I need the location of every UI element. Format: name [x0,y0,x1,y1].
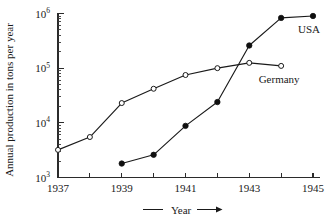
y-axis-title: Annual production in tons per year [3,23,15,177]
data-point-germany-1942 [215,66,220,71]
y-tick-exponent: 3 [46,170,50,179]
x-tick-label: 1941 [175,182,197,194]
data-point-usa-1941 [183,123,188,128]
x-tick-label: 1945 [302,182,325,194]
production-log-chart: 103104105106 19371939194119431945 USAGer… [0,0,334,222]
x-axis-title: Year [171,204,192,216]
data-point-usa-1943 [247,43,252,48]
y-tick-exponent: 6 [46,6,50,15]
data-point-germany-1943 [247,60,252,65]
data-point-germany-1944 [279,63,284,68]
data-point-germany-1938 [87,135,92,140]
data-point-usa-1940 [151,152,156,157]
data-point-usa-1942 [215,99,220,104]
data-point-usa-1939 [119,161,124,166]
x-tick-label: 1937 [47,182,70,194]
y-tick-exponent: 4 [46,115,50,124]
x-tick-label: 1939 [111,182,134,194]
series-label-germany: Germany [259,73,300,85]
data-point-usa-1944 [278,15,283,20]
x-tick-label: 1943 [238,182,261,194]
data-point-germany-1941 [183,73,188,78]
data-point-germany-1937 [56,147,61,152]
series-label-usa: USA [298,23,320,35]
data-point-usa-1945 [310,13,315,18]
chart-container: 103104105106 19371939194119431945 USAGer… [0,0,334,222]
y-tick-exponent: 5 [46,61,50,70]
data-point-germany-1939 [119,101,124,106]
data-point-germany-1940 [151,86,156,91]
